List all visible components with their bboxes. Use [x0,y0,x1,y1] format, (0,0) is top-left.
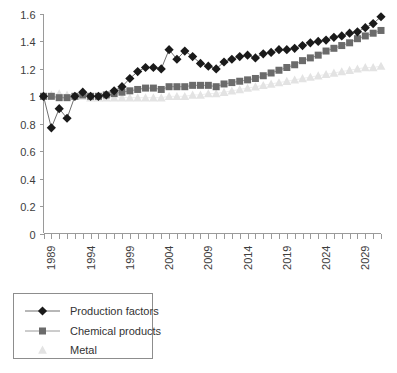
data-point-marker [323,48,330,55]
data-point-marker [149,63,158,72]
legend: Production factorsChemical productsMetal [14,294,162,359]
x-tick-label: 2004 [163,246,175,270]
y-tick-label: 0.6 [20,146,35,158]
data-point-marker [252,75,259,82]
data-point-marker [377,62,386,70]
data-point-marker [141,63,150,72]
x-axis: 198919941999200420092014201920242029 [44,234,382,270]
y-tick-label: 0 [29,229,35,241]
data-point-marker [329,33,338,42]
data-point-marker [251,53,260,62]
series-line [44,30,382,97]
data-point-marker [64,94,71,101]
y-tick-label: 1 [29,91,35,103]
data-point-marker [236,78,243,85]
data-point-marker [227,55,236,64]
data-point-marker [48,93,55,100]
y-tick-label: 0.2 [20,201,35,213]
data-point-marker [337,31,346,40]
y-tick-label: 0.4 [20,174,35,186]
data-point-marker [189,82,196,89]
data-point-marker [134,86,141,93]
data-point-marker [157,64,166,73]
data-point-marker [353,27,362,36]
series-line [44,17,382,128]
x-tick-label: 1999 [124,246,136,270]
data-point-marker [204,62,213,71]
data-point-marker [221,80,228,87]
data-point-marker [268,69,275,76]
data-point-marker [197,82,204,89]
series-line [44,66,382,98]
data-point-marker [56,94,63,101]
data-point-marker [260,72,267,79]
data-point-marker [345,29,354,38]
data-point-marker [228,79,235,86]
y-axis: 00.20.40.60.811.21.41.6 [20,9,43,241]
y-tick-label: 1.6 [20,9,35,21]
data-point-marker [283,64,290,71]
data-point-marker [274,45,283,54]
legend-item-label: Metal [70,344,97,356]
data-point-marker [126,87,133,94]
y-tick-label: 0.8 [20,119,35,131]
data-point-marker [361,23,370,32]
data-point-marker [142,85,149,92]
legend-item-label: Chemical products [70,325,162,337]
data-point-marker [307,54,314,61]
chart-container: 00.20.40.60.811.21.41.6 1989199419992004… [0,0,397,373]
data-point-marker [338,42,345,49]
data-point-marker [213,83,220,90]
data-point-marker [150,85,157,92]
x-tick-label: 1994 [85,246,97,270]
data-point-marker [282,45,291,54]
x-tick-label: 1989 [45,246,57,270]
data-series-group [39,12,386,132]
data-point-marker [173,83,180,90]
x-tick-label: 2024 [320,246,332,270]
data-point-marker [370,30,377,37]
data-point-marker [267,48,276,57]
y-tick-label: 1.2 [20,64,35,76]
x-tick-label: 2019 [281,246,293,270]
data-point-marker [291,61,298,68]
y-tick-label: 1.4 [20,36,35,48]
data-point-marker [181,83,188,90]
data-point-marker [321,35,330,44]
data-point-marker [314,37,323,46]
data-point-marker [290,44,299,53]
data-point-marker [346,39,353,46]
data-point-marker [243,51,252,60]
x-axis-tick-labels: 198919941999200420092014201920242029 [45,246,371,270]
data-point-marker [47,123,56,132]
data-point-marker [259,49,268,58]
data-point-marker [235,52,244,61]
data-point-marker [158,86,165,93]
data-point-marker [39,328,46,335]
x-tick-label: 2029 [359,246,371,270]
data-point-marker [299,57,306,64]
data-point-marker [205,82,212,89]
data-point-marker [244,76,251,83]
y-axis-ticks [40,15,44,235]
index-line-chart: 00.20.40.60.811.21.41.6 1989199419992004… [0,0,397,373]
y-axis-tick-labels: 00.20.40.60.811.21.41.6 [20,9,35,241]
data-point-marker [306,38,315,47]
x-axis-ticks [45,234,382,239]
data-point-marker [362,32,369,39]
data-point-marker [298,41,307,50]
data-point-marker [275,67,282,74]
data-point-marker [378,27,385,34]
data-point-marker [166,83,173,90]
data-point-marker [315,52,322,59]
x-tick-label: 2009 [202,246,214,270]
legend-item-label: Production factors [70,305,159,317]
x-tick-label: 2014 [242,246,254,270]
data-point-marker [330,45,337,52]
